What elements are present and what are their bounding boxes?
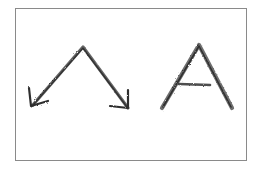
sketch-canvas xyxy=(0,0,260,173)
double-arrow-caret-icon xyxy=(29,47,128,108)
letter-a-icon xyxy=(162,45,232,108)
